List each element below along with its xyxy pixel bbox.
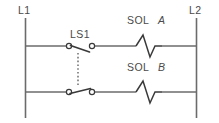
ls1-lower-blade-closed xyxy=(70,89,91,94)
solenoid-b-coil-symbol xyxy=(136,81,162,103)
ls1-lower-terminal-right xyxy=(89,89,94,94)
ls1-upper-terminal-right xyxy=(89,43,94,48)
load-label-sol-b-letter: B xyxy=(158,61,165,73)
switch-label-ls1: LS1 xyxy=(70,28,90,40)
load-label-sol-a-prefix: SOL xyxy=(127,14,149,26)
solenoid-a-coil-symbol xyxy=(136,35,162,57)
ladder-diagram-canvas: L1 L2 LS1 SOL A SOL B xyxy=(0,0,219,123)
rail-label-l2: L2 xyxy=(189,4,201,16)
load-label-sol-a-letter: A xyxy=(157,14,165,26)
rail-label-l1: L1 xyxy=(18,4,30,16)
load-label-sol-b-prefix: SOL xyxy=(127,61,149,73)
ladder-schematic-svg: L1 L2 LS1 SOL A SOL B xyxy=(0,0,219,123)
ls1-upper-blade-open xyxy=(71,46,90,53)
